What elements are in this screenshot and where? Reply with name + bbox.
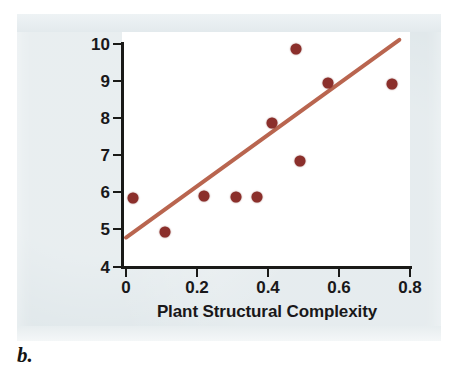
y-axis-tick-label: 8 xyxy=(88,110,110,127)
scanned-figure-page: 45678910 00.20.40.60.8 Number of Lizard … xyxy=(0,0,451,381)
x-axis-tick xyxy=(267,268,269,277)
x-axis-tick-label: 0.8 xyxy=(398,279,422,296)
y-axis-tick-label: 5 xyxy=(88,221,110,238)
x-axis-tick xyxy=(409,268,411,277)
scatter-point xyxy=(160,226,171,237)
scan-artifact-bottom-band xyxy=(17,326,441,341)
x-axis-tick xyxy=(338,268,340,277)
y-axis-tick xyxy=(113,154,121,156)
scatter-point xyxy=(291,43,302,54)
scan-artifact-top-band xyxy=(17,14,441,32)
y-axis-tick xyxy=(113,43,121,45)
scatter-point xyxy=(231,192,242,203)
x-axis-title: Plant Structural Complexity xyxy=(122,302,412,322)
scatter-point xyxy=(252,192,263,203)
y-axis-title: Number of Lizard Species xyxy=(0,0,20,178)
scatter-point xyxy=(128,192,139,203)
y-axis-line xyxy=(121,42,124,269)
scatter-point xyxy=(323,77,334,88)
figure-caption: b. xyxy=(17,343,33,368)
y-axis-tick-label: 7 xyxy=(88,147,110,164)
y-axis-tick-label: 10 xyxy=(82,36,110,53)
y-axis-tick-label: 6 xyxy=(88,184,110,201)
scatter-point xyxy=(387,79,398,90)
y-axis-tick-label: 9 xyxy=(88,73,110,90)
x-axis-tick xyxy=(125,268,127,277)
y-axis-tick-label: 4 xyxy=(88,259,110,276)
y-axis-tick xyxy=(113,117,121,119)
x-axis-tick-label: 0.6 xyxy=(327,279,351,296)
y-axis-tick xyxy=(113,191,121,193)
x-axis-tick-label: 0.2 xyxy=(185,279,209,296)
y-axis-tick xyxy=(113,266,121,268)
scatter-point xyxy=(266,118,277,129)
scatter-point xyxy=(199,191,210,202)
y-axis-tick xyxy=(113,228,121,230)
x-axis-tick-label: 0 xyxy=(121,279,130,296)
x-axis-tick xyxy=(196,268,198,277)
x-axis-tick-label: 0.4 xyxy=(256,279,280,296)
scatter-point xyxy=(294,155,305,166)
y-axis-tick xyxy=(113,80,121,82)
